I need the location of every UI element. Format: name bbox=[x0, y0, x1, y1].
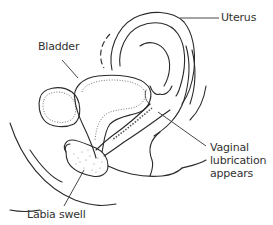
outer-body-contour bbox=[10, 123, 116, 205]
peritoneum-dashed bbox=[101, 34, 110, 68]
anatomy-illustration bbox=[0, 0, 273, 225]
lubrication-dots bbox=[112, 108, 152, 140]
cervix bbox=[150, 86, 172, 95]
bladder-leader bbox=[62, 60, 78, 78]
label-uterus: Uterus bbox=[221, 11, 256, 24]
lubrication-leader bbox=[158, 112, 206, 146]
label-bladder: Bladder bbox=[38, 40, 79, 53]
anatomy-diagram: Uterus Bladder Vaginal lubrication appea… bbox=[0, 0, 273, 225]
label-labia: Labia swell bbox=[27, 208, 86, 221]
pubic-bone bbox=[39, 88, 80, 127]
bladder-lining bbox=[82, 80, 145, 140]
labia-stipple bbox=[74, 150, 103, 173]
uterus-outline bbox=[111, 12, 195, 104]
inner-body-contour bbox=[30, 150, 62, 182]
label-vaginal-lubrication: Vaginal lubrication appears bbox=[210, 141, 266, 180]
labia-leader bbox=[64, 170, 84, 206]
